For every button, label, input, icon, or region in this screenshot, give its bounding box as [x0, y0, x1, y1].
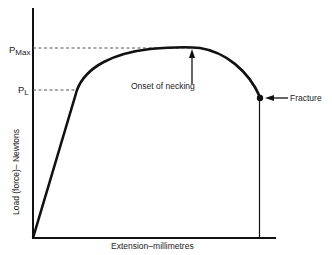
- pmax-label: PMax: [9, 44, 30, 57]
- necking-annotation: Onset of necking: [131, 81, 195, 91]
- x-axis-label: Extension–millimetres: [111, 241, 194, 251]
- necking-arrow-head: [189, 49, 195, 58]
- pmax-label-sub: Max: [15, 48, 30, 57]
- load-extension-diagram: PMax PL Onset of necking Fracture Extens…: [0, 0, 332, 255]
- fracture-annotation: Fracture: [290, 93, 322, 103]
- y-axis-label: Load (force)– Newtons: [11, 129, 21, 215]
- load-extension-curve: [33, 47, 260, 238]
- fracture-arrow-head: [265, 95, 274, 101]
- fracture-point: [257, 95, 263, 101]
- pl-label-sub: L: [24, 88, 29, 97]
- pl-label: PL: [18, 84, 29, 97]
